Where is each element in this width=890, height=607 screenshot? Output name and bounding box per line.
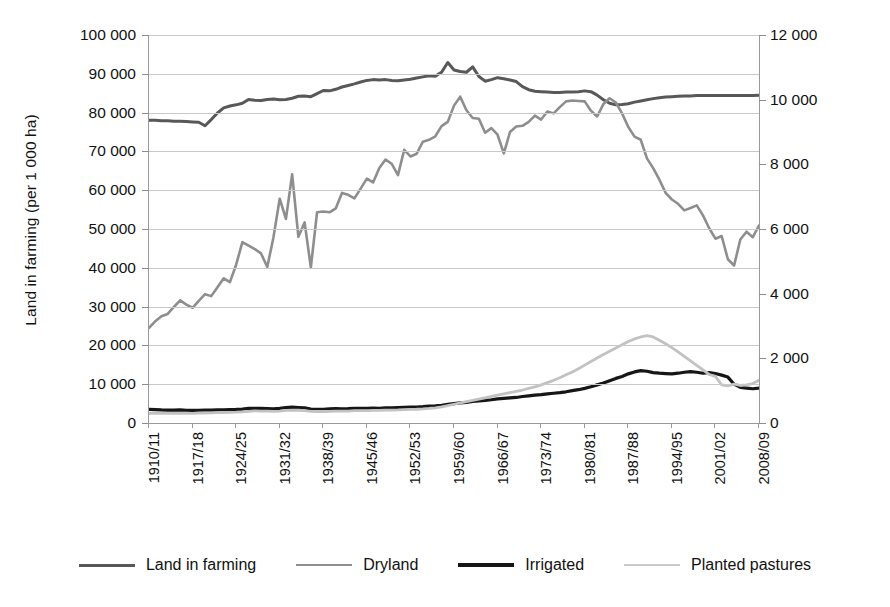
- y-tick-right: [759, 358, 766, 359]
- y-tick-label-right: 12 000: [770, 26, 817, 44]
- legend-label: Planted pastures: [691, 556, 811, 574]
- y-tick-right: [759, 100, 766, 101]
- x-tick-label: 1917/18: [190, 432, 206, 484]
- y-tick-left: [142, 384, 149, 385]
- y-tick-right: [759, 164, 766, 165]
- y-tick-left: [142, 268, 149, 269]
- x-tick-mark: [322, 423, 323, 428]
- y-tick-label-right: 0: [770, 414, 779, 432]
- y-tick-label-left: 40 000: [89, 259, 136, 277]
- gridline: [149, 113, 759, 114]
- y-tick-label-right: 10 000: [770, 91, 817, 109]
- legend-swatch-icon: [624, 564, 680, 566]
- x-tick-mark: [758, 423, 759, 428]
- x-tick-mark: [235, 423, 236, 428]
- legend-label: Irrigated: [525, 556, 584, 574]
- y-tick-label-left: 50 000: [89, 220, 136, 238]
- y-tick-label-right: 6 000: [770, 220, 809, 238]
- y-tick-label-left: 60 000: [89, 181, 136, 199]
- y-tick-right: [759, 35, 766, 36]
- y-tick-right: [759, 229, 766, 230]
- x-tick-label: 1910/11: [146, 432, 162, 483]
- x-tick-label: 1952/53: [407, 432, 423, 484]
- legend-label: Land in farming: [146, 556, 256, 574]
- y-tick-label-left: 20 000: [89, 336, 136, 354]
- y-tick-left: [142, 113, 149, 114]
- y-tick-right: [759, 294, 766, 295]
- x-tick-label: 1931/32: [277, 432, 293, 484]
- x-tick-mark: [453, 423, 454, 428]
- legend-label: Dryland: [363, 556, 418, 574]
- y-tick-label-left: 10 000: [89, 375, 136, 393]
- x-tick-mark: [714, 423, 715, 428]
- gridline: [149, 151, 759, 152]
- gridline: [149, 307, 759, 308]
- y-tick-label-left: 30 000: [89, 298, 136, 316]
- x-tick-mark: [409, 423, 410, 428]
- y-tick-label-left: 80 000: [89, 104, 136, 122]
- x-tick-label: 1945/46: [364, 432, 380, 484]
- legend-item[interactable]: Dryland: [296, 556, 418, 574]
- gridline: [149, 35, 759, 36]
- x-tick-mark: [497, 423, 498, 428]
- x-tick-label: 2001/02: [712, 432, 728, 484]
- y-tick-left: [142, 229, 149, 230]
- gridline: [149, 345, 759, 346]
- y-tick-label-left: 70 000: [89, 142, 136, 160]
- y-tick-left: [142, 151, 149, 152]
- y-tick-left: [142, 345, 149, 346]
- gridlines: [149, 35, 759, 423]
- x-tick-label: 1994/95: [669, 432, 685, 484]
- x-tick-mark: [192, 423, 193, 428]
- x-tick-label: 1980/81: [582, 432, 598, 484]
- gridline: [149, 190, 759, 191]
- gridline: [149, 229, 759, 230]
- x-axis-labels: 1910/111917/181924/251931/321938/391945/…: [148, 432, 758, 542]
- y-tick-right: [759, 423, 766, 424]
- chart-container: Land in farming (per 1 000 ha) 010 00020…: [0, 0, 890, 607]
- y-tick-left: [142, 190, 149, 191]
- y-tick-label-left: 0: [127, 414, 136, 432]
- gridline: [149, 384, 759, 385]
- legend-swatch-icon: [296, 564, 352, 566]
- x-tick-mark: [627, 423, 628, 428]
- legend-swatch-icon: [458, 563, 514, 567]
- x-tick-label: 1938/39: [320, 432, 336, 484]
- x-tick-label: 1959/60: [451, 432, 467, 484]
- y-tick-left: [142, 307, 149, 308]
- x-tick-mark: [366, 423, 367, 428]
- x-tick-mark: [671, 423, 672, 428]
- x-tick-label: 1973/74: [538, 432, 554, 484]
- y-tick-label-left: 100 000: [80, 26, 136, 44]
- y-tick-left: [142, 74, 149, 75]
- chart-legend: Land in farmingDrylandIrrigatedPlanted p…: [0, 556, 890, 574]
- x-tick-label: 1966/67: [495, 432, 511, 484]
- legend-item[interactable]: Land in farming: [79, 556, 256, 574]
- gridline: [149, 423, 759, 424]
- y-tick-label-left: 90 000: [89, 65, 136, 83]
- plot-area: [148, 35, 760, 423]
- y-tick-label-right: 4 000: [770, 285, 809, 303]
- x-tick-mark: [584, 423, 585, 428]
- x-tick-label: 1987/88: [625, 432, 641, 484]
- y-axis-left-labels: 010 00020 00030 00040 00050 00060 00070 …: [0, 0, 136, 607]
- x-tick-mark: [279, 423, 280, 428]
- legend-item[interactable]: Planted pastures: [624, 556, 811, 574]
- legend-swatch-icon: [79, 564, 135, 567]
- y-axis-right-labels: 02 0004 0006 0008 00010 00012 000: [770, 0, 880, 607]
- gridline: [149, 268, 759, 269]
- x-tick-label: 2008/09: [756, 432, 772, 484]
- legend-item[interactable]: Irrigated: [458, 556, 584, 574]
- x-tick-mark: [148, 423, 149, 428]
- x-tick-label: 1924/25: [233, 432, 249, 484]
- y-tick-left: [142, 35, 149, 36]
- x-tick-mark: [540, 423, 541, 428]
- y-tick-label-right: 2 000: [770, 349, 809, 367]
- gridline: [149, 74, 759, 75]
- y-tick-label-right: 8 000: [770, 155, 809, 173]
